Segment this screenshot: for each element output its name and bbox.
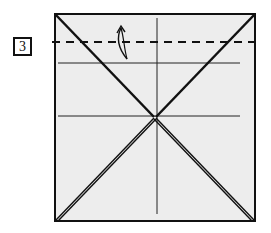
fold-diagram [0, 0, 271, 233]
